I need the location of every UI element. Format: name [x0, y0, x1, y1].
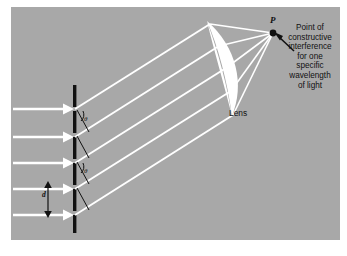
diffracted-ray-2: [75, 46, 219, 137]
diffracted-ray-3: [75, 68, 226, 163]
theta-2-ray-extension: [77, 188, 89, 210]
annotation-line-3: interference: [279, 42, 340, 52]
grating-segment-4: [73, 163, 76, 185]
theta-label-upper: θ: [84, 115, 87, 123]
grating-segment-6: [73, 215, 76, 233]
arrowhead-1: [63, 104, 74, 115]
annotation-line-4: for one: [279, 52, 340, 62]
converging-ray-5: [233, 33, 273, 115]
grating-segment-1: [73, 85, 76, 107]
converging-ray-1: [210, 24, 273, 33]
theta-1-ray-extension: [77, 136, 89, 158]
arrowhead-5: [63, 210, 74, 221]
grating-segment-5: [73, 189, 76, 211]
diffraction-grating: [73, 85, 76, 233]
incoming-rays: [13, 109, 65, 215]
incoming-ray-arrowheads: [63, 104, 74, 221]
annotation-line-6: wavelength: [279, 71, 340, 81]
slit-spacing-label: d: [42, 190, 46, 199]
diagram-canvas: P Lens Point of constructive interferenc…: [11, 7, 340, 240]
annotation-line-2: constructive: [279, 33, 340, 43]
arrowhead-4: [63, 184, 74, 195]
grating-segment-3: [73, 137, 76, 159]
theta-label-lower: θ: [84, 167, 87, 175]
figure-root: P Lens Point of constructive interferenc…: [0, 0, 347, 256]
point-p-label: P: [270, 15, 276, 25]
diffracted-ray-4: [75, 91, 231, 189]
annotation-line-5: specific: [279, 61, 340, 71]
annotation-caption: Point of constructive interference for o…: [279, 23, 340, 90]
arrowhead-2: [63, 132, 74, 143]
diffracted-ray-1: [75, 24, 210, 109]
annotation-line-1: Point of: [279, 23, 340, 33]
lens-label: Lens: [229, 108, 247, 118]
arrowhead-3: [63, 158, 74, 169]
diffracted-rays: [75, 24, 233, 215]
d-arrow-up: [44, 181, 52, 188]
slit-spacing-indicator: [44, 181, 52, 218]
annotation-line-7: of light: [279, 81, 340, 91]
grating-segment-2: [73, 111, 76, 133]
diffracted-ray-5: [75, 115, 233, 215]
